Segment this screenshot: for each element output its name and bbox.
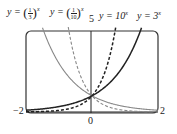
label-tenth: y = (110)x bbox=[50, 5, 84, 21]
curve-2 bbox=[26, 27, 116, 112]
label-ten: y = 10x bbox=[99, 10, 128, 21]
label-third: y = (13)x bbox=[7, 5, 40, 21]
x-tick-right: 2 bbox=[160, 105, 165, 116]
label-three: y = 3x bbox=[137, 10, 161, 21]
curve-0 bbox=[43, 28, 159, 110]
plot-frame bbox=[26, 31, 158, 113]
x-tick-left: −2 bbox=[13, 105, 24, 116]
y-tick-top: 5 bbox=[89, 13, 94, 24]
curve-3 bbox=[26, 28, 142, 110]
x-tick-center: 0 bbox=[88, 115, 93, 126]
